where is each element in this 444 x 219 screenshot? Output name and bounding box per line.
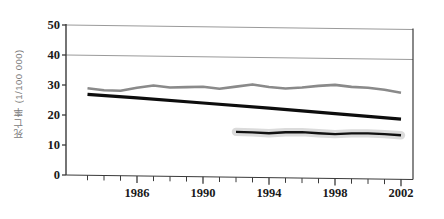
plot-area: [0, 0, 444, 219]
gridline-40: [66, 55, 413, 60]
black-declining-series: [88, 94, 402, 119]
axis-line-group: [66, 24, 413, 180]
series-group: [88, 84, 402, 135]
gridline-50: [66, 25, 413, 30]
gray-upper-series: [88, 84, 402, 92]
x-axis-line: [66, 175, 413, 180]
gridline-group: [66, 25, 413, 60]
chart-container: 死亡率 (1/100 000) 50 40 30 20 10 0 1986 19…: [0, 0, 444, 219]
